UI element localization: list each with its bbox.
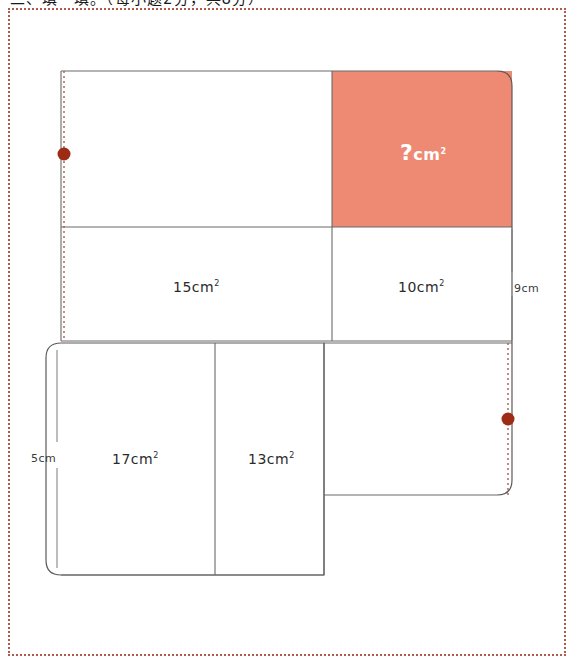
unit-cm: cm: [267, 451, 289, 467]
unit-cm: cm: [192, 279, 214, 295]
question-mark-glyph: ?: [400, 140, 413, 165]
area-label-unknown: ?cm2: [400, 142, 446, 164]
right-vertex-marker: [502, 413, 515, 426]
exponent-2: 2: [289, 451, 294, 460]
area-value-15: 15: [173, 279, 192, 295]
area-value-13: 13: [248, 451, 267, 467]
area-label-13: 13cm2: [248, 451, 294, 467]
area-value-17: 17: [112, 451, 131, 467]
area-label-15: 15cm2: [173, 279, 219, 295]
left-vertex-marker: [58, 148, 71, 161]
exponent-2: 2: [440, 147, 446, 156]
area-label-17: 17cm2: [112, 451, 158, 467]
dimension-label-right-9cm: 9cm: [514, 282, 539, 295]
unit-cm: cm: [131, 451, 153, 467]
exponent-2: 2: [153, 451, 158, 460]
unit-cm: cm: [417, 279, 439, 295]
area-value-10: 10: [398, 279, 417, 295]
area-label-10: 10cm2: [398, 279, 444, 295]
exponent-2: 2: [214, 279, 219, 288]
dimension-label-left-5cm: 5cm: [31, 452, 56, 465]
exponent-2: 2: [439, 279, 444, 288]
unit-cm: cm: [413, 145, 440, 164]
